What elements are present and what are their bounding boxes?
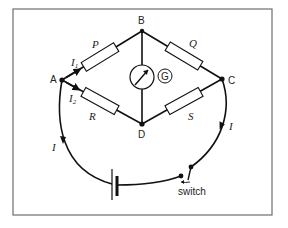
node-c: [219, 76, 224, 81]
resistor-q: [165, 42, 203, 70]
current-arrow-i2: [66, 82, 77, 88]
resistor-label-q: Q: [189, 37, 197, 49]
node-d: [139, 121, 144, 126]
node-label-d: D: [138, 129, 145, 140]
battery-icon: [112, 169, 117, 200]
resistor-label-r: R: [88, 110, 96, 122]
current-label-right: I: [228, 120, 234, 132]
current-label-left: I: [51, 141, 57, 153]
node-b: [140, 29, 144, 33]
node-label-a: A: [50, 74, 57, 85]
node-a: [59, 77, 64, 82]
current-label-i1: I1: [70, 56, 78, 70]
resistor-p: [81, 43, 119, 71]
current-label-i2: I2: [68, 92, 77, 106]
node-label-c: C: [228, 75, 235, 86]
resistor-label-s: S: [188, 110, 194, 122]
resistor-s: [165, 87, 203, 114]
resistor-r: [81, 87, 119, 114]
current-arrow-i1: [66, 71, 78, 78]
galvanometer-icon: [130, 65, 154, 89]
switch-icon[interactable]: [179, 165, 194, 184]
node-label-b: B: [138, 15, 145, 26]
resistor-label-p: P: [91, 38, 99, 50]
wheatstone-bridge-diagram: G A B C D P Q: [0, 0, 288, 228]
galvanometer-label-circle: G: [158, 69, 172, 83]
wire-battery-switch: [117, 176, 181, 185]
galvanometer-label: G: [161, 71, 169, 82]
switch-label: switch: [178, 186, 206, 197]
